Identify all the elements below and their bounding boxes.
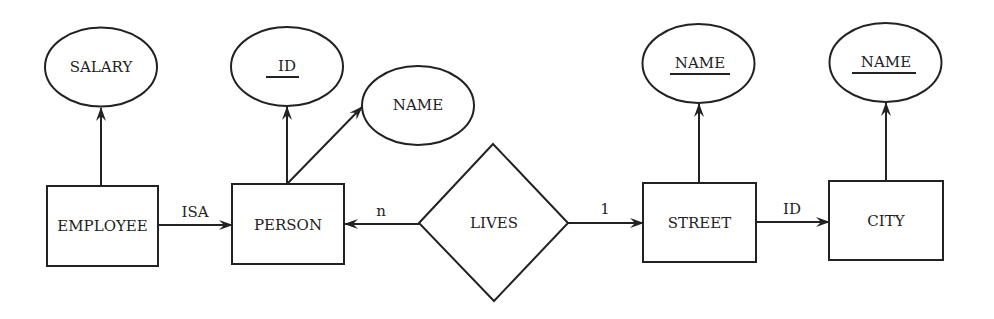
attribute-person-name[interactable]: NAME [362, 66, 474, 145]
edge-label-n: n [376, 202, 386, 220]
attribute-street-name[interactable]: NAME [643, 24, 755, 103]
edge-label-isa: ISA [181, 203, 208, 221]
attribute-label: NAME [675, 54, 725, 72]
attribute-city-name[interactable]: NAME [830, 23, 942, 102]
edge-label-id: ID [783, 200, 801, 218]
attribute-person-id[interactable]: ID [231, 27, 343, 106]
attribute-label: ID [278, 57, 296, 75]
er-diagram: ISA n 1 ID SALARY ID NAME NAME NAME EMPL… [0, 0, 994, 319]
entity-label: PERSON [254, 216, 322, 234]
entity-employee[interactable]: EMPLOYEE [47, 186, 158, 266]
relationship-label: LIVES [470, 214, 518, 232]
edge-label-1: 1 [600, 200, 610, 218]
attribute-label: NAME [861, 53, 911, 71]
relationship-lives[interactable]: LIVES [419, 144, 568, 301]
entity-person[interactable]: PERSON [232, 184, 344, 264]
entity-city[interactable]: CITY [829, 181, 943, 260]
entity-label: CITY [867, 212, 905, 230]
entity-label: EMPLOYEE [57, 217, 147, 235]
edge-person-name [287, 107, 362, 184]
entity-street[interactable]: STREET [643, 183, 756, 262]
attribute-label: NAME [393, 96, 443, 114]
attribute-salary[interactable]: SALARY [45, 28, 157, 107]
entity-label: STREET [668, 214, 731, 232]
attribute-label: SALARY [70, 58, 134, 76]
